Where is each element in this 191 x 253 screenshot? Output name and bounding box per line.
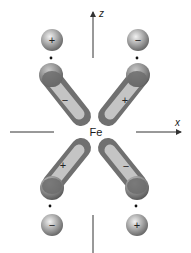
x-axis-label: x [174,117,181,128]
ligand-dot [136,57,139,60]
lobe-sign: − [123,160,129,172]
ligand-sign: − [49,219,55,231]
lobe-sign: − [62,94,68,106]
ligand-top-left: + [41,29,63,51]
center-atom-label: Fe [90,126,103,138]
ligand-sign: + [49,34,55,46]
orbital-lobe-bottom-left: + [40,148,81,200]
ligand-bottom-right: + [126,214,148,236]
ligand-bottom-left: − [41,214,63,236]
orbital-lobe-top-right: + [108,63,150,116]
ligand-sign: − [135,34,141,46]
ligand-dot [135,205,138,208]
orbital-lobe-top-left: − [39,63,81,116]
lobe-sign: + [122,94,128,106]
orbital-diagram: z x Fe + − − + − + [0,0,191,253]
lobe-sign: + [60,159,66,171]
orbital-lobe-bottom-right: − [108,148,149,200]
ligand-dot [50,57,53,60]
z-axis-label: z [98,8,104,19]
ligand-dot [49,205,52,208]
ligand-sign: + [134,219,140,231]
ligand-top-right: − [127,29,149,51]
